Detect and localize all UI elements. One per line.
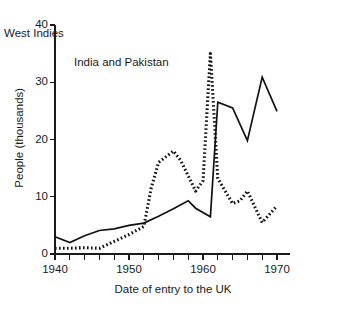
x-tick-label-1960: 1960 — [178, 264, 228, 276]
x-tick-label-1940: 1940 — [30, 264, 80, 276]
x-axis-title: Date of entry to the UK — [0, 284, 346, 296]
series-line-0 — [55, 54, 277, 249]
x-tick-label-1950: 1950 — [104, 264, 154, 276]
series-line-1 — [55, 77, 277, 242]
y-axis-title: People (thousands) — [14, 58, 26, 218]
x-tick-label-1970: 1970 — [252, 264, 302, 276]
series-label-0: West Indies — [4, 28, 64, 40]
line-chart: 0102030401940195019601970 West IndiesInd… — [0, 0, 346, 309]
series-group — [55, 54, 277, 249]
y-tick-label-0: 0 — [3, 248, 48, 260]
series-label-1: India and Pakistan — [74, 57, 169, 69]
